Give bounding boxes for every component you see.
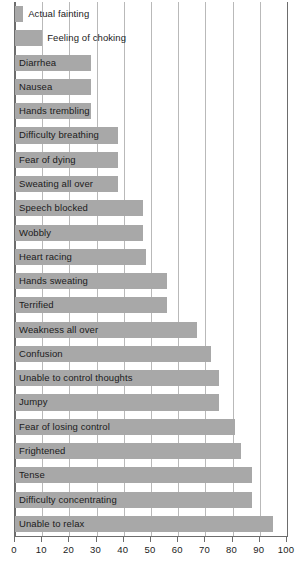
bar-label: Unable to control thoughts [19,373,133,383]
bar-row: Weakness all over [15,322,287,338]
x-tick-label-70: 70 [199,545,210,555]
bar-label: Fear of losing control [19,422,110,432]
bar [15,30,42,46]
bar-row: Difficulty breathing [15,127,287,143]
x-tick-label-90: 90 [253,545,264,555]
bar-label: Nausea [19,82,52,92]
bar-label: Hands sweating [19,276,88,286]
bar [15,6,23,22]
x-tick-label-20: 20 [63,545,74,555]
x-tick-80 [232,537,233,542]
bar-label: Actual fainting [28,9,89,19]
bar-label: Hands trembling [19,106,90,116]
bar-label: Difficulty breathing [19,131,99,141]
bar [15,467,252,483]
bar-row: Unable to control thoughts [15,370,287,386]
x-axis-tick-labels: 0102030405060708090100 [0,545,301,561]
x-tick-label-10: 10 [36,545,47,555]
x-tick-50 [150,537,151,542]
bar-label: Weakness all over [19,325,98,335]
x-tick-label-50: 50 [145,545,156,555]
gridline-100 [287,2,288,536]
bar-label: Jumpy [19,398,47,408]
bar-row: Hands sweating [15,273,287,289]
bar-row: Hands trembling [15,103,287,119]
x-tick-30 [96,537,97,542]
bar-row: Unable to relax [15,516,287,532]
bar-row: Fear of dying [15,152,287,168]
bar-label: Diarrhea [19,58,56,68]
bar-row: Heart racing [15,249,287,265]
bar-label: Tense [19,471,45,481]
bar-row: Tense [15,467,287,483]
x-tick-90 [259,537,260,542]
bar-row: Sweating all over [15,176,287,192]
x-tick-20 [68,537,69,542]
x-tick-60 [177,537,178,542]
bar-label: Terrified [19,301,54,311]
bar-row: Feeling of choking [15,30,287,46]
bar-series: Actual faintingFeeling of chokingDiarrhe… [15,2,287,536]
x-tick-70 [204,537,205,542]
x-tick-label-30: 30 [90,545,101,555]
bar-label: Confusion [19,349,63,359]
bar-row: Difficulty concentrating [15,492,287,508]
bar-row: Frightened [15,443,287,459]
x-tick-100 [286,537,287,542]
bar-row: Fear of losing control [15,419,287,435]
bar-label: Sweating all over [19,179,93,189]
bar-row: Terrified [15,297,287,313]
plot-area: Actual faintingFeeling of chokingDiarrhe… [14,2,288,536]
bar-label: Fear of dying [19,155,76,165]
bar-label: Heart racing [19,252,72,262]
x-tick-label-40: 40 [117,545,128,555]
bar-label: Frightened [19,446,65,456]
x-tick-label-80: 80 [226,545,237,555]
x-tick-label-0: 0 [11,545,16,555]
bar-row: Confusion [15,346,287,362]
bar-row: Actual fainting [15,6,287,22]
bar-label: Speech blocked [19,204,88,214]
x-tick-40 [123,537,124,542]
bar-row: Nausea [15,79,287,95]
bar-label: Wobbly [19,228,51,238]
bar-row: Wobbly [15,225,287,241]
panic-symptom-bar-chart: Actual faintingFeeling of chokingDiarrhe… [0,0,301,574]
bar-row: Jumpy [15,394,287,410]
x-tick-10 [41,537,42,542]
x-tick-label-100: 100 [278,545,294,555]
x-tick-label-60: 60 [172,545,183,555]
x-tick-0 [14,537,15,542]
bar-label: Unable to relax [19,519,84,529]
bar-row: Diarrhea [15,55,287,71]
bar-row: Speech blocked [15,200,287,216]
bar-label: Feeling of choking [47,34,126,44]
bar-label: Difficulty concentrating [19,495,117,505]
